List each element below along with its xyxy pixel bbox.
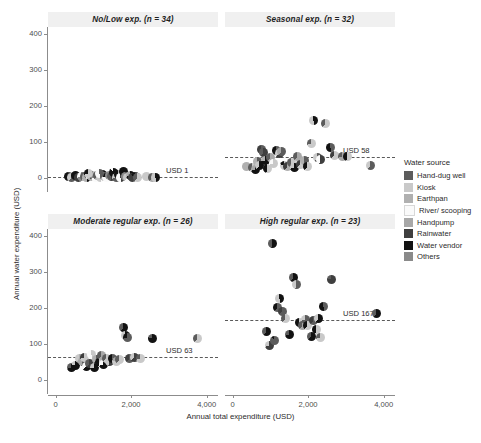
panel-header-high: High regular exp. (n = 23) [225,214,395,229]
y-axis-line [47,229,48,394]
data-point-pie [148,334,157,343]
data-point-pie [316,155,325,164]
data-point-pie [277,147,286,156]
legend: Water source Hand-dug wellKioskEarthpanR… [404,158,481,263]
y-axis-tick [44,380,47,381]
data-point-pie [193,334,202,343]
x-axis-title: Annual total expenditure (USD) [0,412,481,421]
y-axis-tick-label: 400 [16,29,42,38]
y-axis-tick [44,236,47,237]
legend-item-label: Hand-dug well [417,171,466,180]
data-point-pie [307,139,316,148]
panel-title: Moderate regular exp. (n = 26) [73,217,192,226]
data-point-pie [321,119,330,128]
y-axis-tick [44,178,47,179]
data-point-pie [314,314,323,323]
data-point-pie [84,169,93,178]
panel-title: No/Low exp. (n = 34) [92,15,173,24]
panel-header-moderate: Moderate regular exp. (n = 26) [48,214,218,229]
panel-header-no-low: No/Low exp. (n = 34) [48,12,218,27]
x-axis-tick-label: 0 [36,400,76,409]
data-point-pie [275,294,284,303]
data-point-pie [285,330,294,339]
data-point-pie [115,355,124,364]
data-point-pie [309,116,318,125]
panel-header-seasonal: Seasonal exp. (n = 32) [225,12,395,27]
legend-swatch [404,218,413,227]
x-axis-tick [233,395,234,398]
data-point-pie [262,327,271,336]
legend-swatch [404,194,413,203]
y-axis-tick [44,344,47,345]
legend-item-label: Earthpan [417,194,448,203]
legend-item[interactable]: Earthpan [404,193,481,205]
y-axis-line [47,27,48,192]
legend-swatch [404,241,413,250]
x-axis-tick-label: 2,000 [288,400,328,409]
y-axis-tick-label: 0 [16,375,42,384]
data-point-pie [292,280,301,289]
legend-item-label: Rainwater [417,229,451,238]
data-point-pie [151,173,160,182]
y-axis-tick-label: 0 [16,173,42,182]
legend-swatch [404,205,415,216]
x-axis-tick [384,395,385,398]
mean-reference-line [225,157,395,158]
legend-swatch [404,171,413,180]
y-axis-tick-label: 100 [16,339,42,348]
y-axis-tick [44,142,47,143]
y-axis-tick [44,34,47,35]
plot-panel-high: USD 167 [225,229,395,394]
y-axis-tick-label: 300 [16,65,42,74]
data-point-pie [366,161,375,170]
mean-reference-label: USD 167 [343,309,374,318]
legend-item-label: Water vendor [417,241,462,250]
legend-swatch [404,252,413,261]
legend-item[interactable]: Others [404,251,481,263]
y-axis-tick [44,272,47,273]
data-point-pie [133,173,142,182]
x-axis-tick-label: 2,000 [111,400,151,409]
legend-item-label: River/ scooping [419,206,471,215]
x-axis-tick [308,395,309,398]
panel-title: High regular exp. (n = 23) [260,217,361,226]
mean-reference-label: USD 1 [166,166,188,175]
x-axis-tick [207,395,208,398]
legend-swatch [404,229,413,238]
data-point-pie [269,159,278,168]
data-point-pie [270,336,279,345]
x-axis-tick [131,395,132,398]
data-point-pie [319,302,328,311]
legend-item-label: Others [417,252,440,261]
x-axis-tick-label: 0 [213,400,253,409]
x-axis-line [225,395,395,396]
data-point-pie [327,275,336,284]
y-axis-tick [44,70,47,71]
data-point-pie [136,354,145,363]
y-axis-tick-label: 200 [16,101,42,110]
legend-item[interactable]: Kiosk [404,182,481,194]
y-axis-title: Annual water expenditure (USD) [12,188,21,300]
legend-item-label: Kiosk [417,183,436,192]
legend-item[interactable]: Handpump [404,216,481,228]
plot-panel-moderate: USD 63 [48,229,218,394]
legend-items: Hand-dug wellKioskEarthpanRiver/ scoopin… [404,170,481,263]
legend-item[interactable]: Hand-dug well [404,170,481,182]
legend-title: Water source [404,158,481,167]
x-axis-tick [56,395,57,398]
legend-item-label: Handpump [417,218,454,227]
legend-swatch [404,183,413,192]
data-point-pie [281,314,290,323]
legend-item[interactable]: River/ scooping [404,205,481,217]
y-axis-tick [44,308,47,309]
y-axis-tick-label: 100 [16,137,42,146]
data-point-pie [372,309,381,318]
y-axis-tick [44,106,47,107]
data-point-pie [316,333,325,342]
legend-item[interactable]: Water vendor [404,240,481,252]
data-point-pie [343,152,352,161]
x-axis-line [48,395,218,396]
panel-title: Seasonal exp. (n = 32) [266,15,354,24]
legend-item[interactable]: Rainwater [404,228,481,240]
data-point-pie [123,333,132,342]
